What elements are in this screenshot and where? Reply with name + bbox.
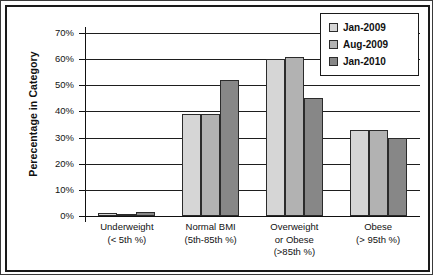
y-axis-tick-label: 10% xyxy=(32,184,74,195)
bar xyxy=(350,130,369,216)
legend-item-label: Jan-2009 xyxy=(343,22,386,33)
legend-item[interactable]: Aug-2009 xyxy=(329,36,418,53)
dark-gray-swatch-icon xyxy=(329,57,338,66)
bar xyxy=(304,98,323,216)
y-axis-tick-label: 50% xyxy=(32,79,74,90)
y-axis-tick-label: 40% xyxy=(32,105,74,116)
bar xyxy=(117,214,136,216)
category-label-line: Overweight xyxy=(270,221,318,232)
light-gray-swatch-icon xyxy=(329,23,338,32)
bar xyxy=(220,80,239,216)
category-label-line: Obese xyxy=(364,221,392,232)
bar xyxy=(369,130,388,216)
bar xyxy=(201,114,220,216)
category-label-line: (> 95th %) xyxy=(323,234,433,247)
gridline xyxy=(85,216,420,217)
category-label-line: Normal BMI xyxy=(186,221,236,232)
medium-gray-swatch-icon xyxy=(329,40,338,49)
gridline xyxy=(85,111,420,112)
x-axis-category-label: Obese(> 95th %) xyxy=(323,221,433,246)
chart-legend: Jan-2009 Aug-2009 Jan-2010 xyxy=(320,13,419,76)
y-axis-tick-label: 30% xyxy=(32,132,74,143)
bar xyxy=(98,213,117,216)
legend-item[interactable]: Jan-2010 xyxy=(329,53,418,70)
y-axis-tick-label: 0% xyxy=(32,210,74,221)
bar xyxy=(388,138,407,216)
legend-item-label: Aug-2009 xyxy=(343,39,388,50)
y-axis-tick-label: 20% xyxy=(32,158,74,169)
category-label-line: (>85th %) xyxy=(239,246,349,259)
gridline xyxy=(85,85,420,86)
bar xyxy=(285,57,304,216)
category-label-line: Underweight xyxy=(100,221,153,232)
y-axis-tick-label: 70% xyxy=(32,27,74,38)
bar xyxy=(182,114,201,216)
legend-item[interactable]: Jan-2009 xyxy=(329,19,418,36)
bar xyxy=(266,59,285,216)
y-axis-tick-label: 60% xyxy=(32,53,74,64)
bar-chart: Perecentage in Category 70%60%50%40%30%2… xyxy=(0,0,433,275)
legend-item-label: Jan-2010 xyxy=(343,56,386,67)
bar xyxy=(136,212,155,216)
